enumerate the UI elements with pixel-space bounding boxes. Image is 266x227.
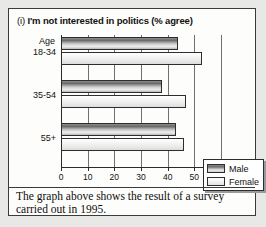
screenshot-root: (i) I'm not interested in politics (% ag… [0, 0, 266, 227]
tick-30 [141, 167, 142, 171]
chart-plot-area: 18-3435-5455+ 0102030405060% Male Female… [15, 31, 251, 186]
figure-title-text: I'm not interested in politics (% agree) [28, 15, 193, 26]
figure-title: (i) I'm not interested in politics (% ag… [17, 15, 193, 26]
tick-0 [61, 167, 62, 171]
bar-18-34-male [61, 37, 178, 50]
tick-40 [168, 167, 169, 171]
figure-marker: (i) [17, 15, 25, 26]
gridline-60 [221, 35, 222, 167]
bar-55+-female [61, 138, 184, 151]
axis-category-header: Age [15, 36, 55, 46]
bar-35-54-female [61, 95, 186, 108]
bar-group-18-34: 18-34 [61, 37, 221, 75]
tick-label-40: 40 [163, 172, 172, 182]
tick-50 [194, 167, 195, 171]
caption-divider [9, 187, 255, 188]
tick-10 [88, 167, 89, 171]
bar-group-35-54: 35-54 [61, 80, 221, 118]
figure-card: (i) I'm not interested in politics (% ag… [8, 8, 256, 216]
legend-label-female: Female [229, 177, 259, 187]
bar-18-34-female [61, 52, 202, 65]
figure-caption: The graph above shows the result of a su… [16, 190, 248, 216]
tick-label-0: 0 [59, 172, 64, 182]
legend-swatch-female-icon [207, 177, 225, 186]
legend-item-female: Female [207, 176, 259, 187]
category-label-18-34: 18-34 [33, 47, 56, 57]
category-label-55+: 55+ [41, 133, 56, 143]
legend-item-male: Male [207, 163, 259, 174]
category-label-35-54: 35-54 [33, 90, 56, 100]
tick-label-50: 50 [190, 172, 199, 182]
tick-20 [114, 167, 115, 171]
legend-swatch-male-icon [207, 164, 225, 173]
bar-group-55+: 55+ [61, 123, 221, 161]
tick-label-20: 20 [110, 172, 119, 182]
tick-label-10: 10 [83, 172, 92, 182]
tick-label-30: 30 [136, 172, 145, 182]
bar-55+-male [61, 123, 176, 136]
legend-label-male: Male [229, 164, 249, 174]
bar-35-54-male [61, 80, 162, 93]
